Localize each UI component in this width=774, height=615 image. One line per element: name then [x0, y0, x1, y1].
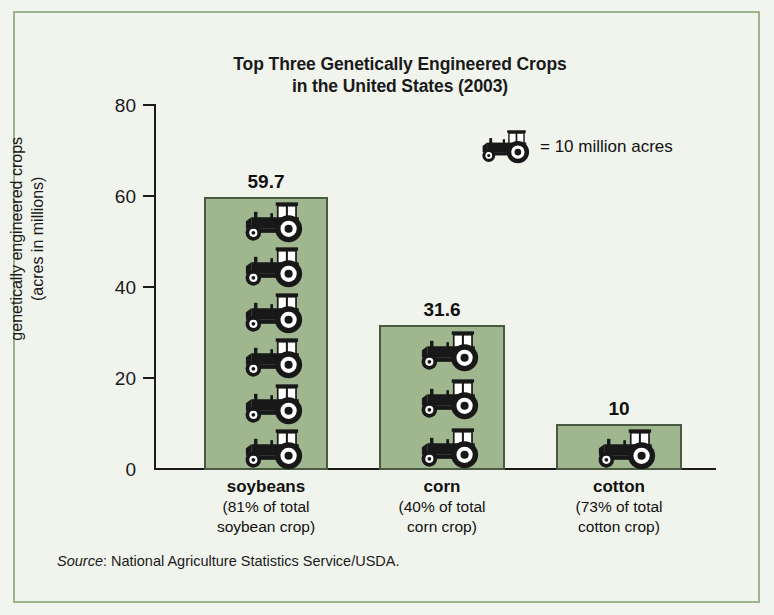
tractor-icon	[206, 336, 326, 382]
chart-title-line-2: in the United States (2003)	[292, 76, 508, 96]
icon-stack-corn	[381, 327, 503, 468]
y-axis-title-line-2: (acres in millions)	[29, 177, 46, 301]
bar-soybeans[interactable]	[204, 197, 328, 470]
tractor-icon	[206, 381, 326, 427]
y-axis-title: genetically engineered crops (acres in m…	[7, 29, 49, 449]
source-text: National Agriculture Statistics Service/…	[111, 553, 400, 569]
y-tick-60	[143, 195, 155, 197]
bar-value-cotton: 10	[556, 399, 682, 418]
chart-title-line-1: Top Three Genetically Engineered Crops	[233, 54, 566, 74]
category-label-cotton: cotton (73% of total cotton crop)	[539, 476, 699, 536]
chart-figure: Top Three Genetically Engineered Crops i…	[0, 0, 774, 615]
tractor-icon	[381, 375, 503, 423]
category-sub-cotton-1: (73% of total	[539, 497, 699, 516]
legend: = 10 million acres	[477, 129, 673, 164]
source-label: Source	[57, 553, 103, 569]
category-sub-corn-1: (40% of total	[362, 497, 522, 516]
tractor-icon	[206, 290, 326, 336]
category-sub-cotton-2: cotton crop)	[539, 517, 699, 536]
y-tick-20	[143, 377, 155, 379]
y-tick-label-0: 0	[96, 460, 136, 479]
icon-stack-cotton	[558, 426, 680, 468]
tractor-icon	[381, 327, 503, 375]
category-sub-soybeans-1: (81% of total	[186, 497, 346, 516]
category-label-corn: corn (40% of total corn crop)	[362, 476, 522, 536]
y-tick-label-80: 80	[96, 96, 136, 115]
bar-value-corn: 31.6	[379, 300, 505, 319]
bar-value-soybeans: 59.7	[204, 172, 328, 191]
y-tick-40	[143, 286, 155, 288]
y-tick-label-40: 40	[96, 278, 136, 297]
category-name-soybeans: soybeans	[186, 476, 346, 497]
tractor-icon	[381, 424, 503, 472]
tractor-icon	[477, 129, 533, 164]
bar-corn[interactable]	[379, 325, 505, 470]
tractor-icon	[206, 427, 326, 473]
source-note: Source: National Agriculture Statistics …	[57, 553, 400, 569]
icon-stack-soybeans	[206, 199, 326, 468]
y-tick-80	[143, 104, 155, 106]
y-axis-title-line-1: genetically engineered crops	[8, 137, 25, 341]
y-tick-label-20: 20	[96, 369, 136, 388]
category-name-cotton: cotton	[539, 476, 699, 497]
tractor-icon	[206, 199, 326, 245]
category-sub-soybeans-2: soybean crop)	[186, 517, 346, 536]
tractor-icon	[206, 245, 326, 291]
source-separator: :	[103, 553, 111, 569]
y-tick-label-60: 60	[96, 187, 136, 206]
category-sub-corn-2: corn crop)	[362, 517, 522, 536]
category-name-corn: corn	[362, 476, 522, 497]
chart-title: Top Three Genetically Engineered Crops i…	[105, 53, 695, 98]
bar-cotton[interactable]	[556, 424, 682, 470]
category-label-soybeans: soybeans (81% of total soybean crop)	[186, 476, 346, 536]
tractor-icon	[558, 426, 680, 472]
legend-label: = 10 million acres	[540, 137, 673, 157]
